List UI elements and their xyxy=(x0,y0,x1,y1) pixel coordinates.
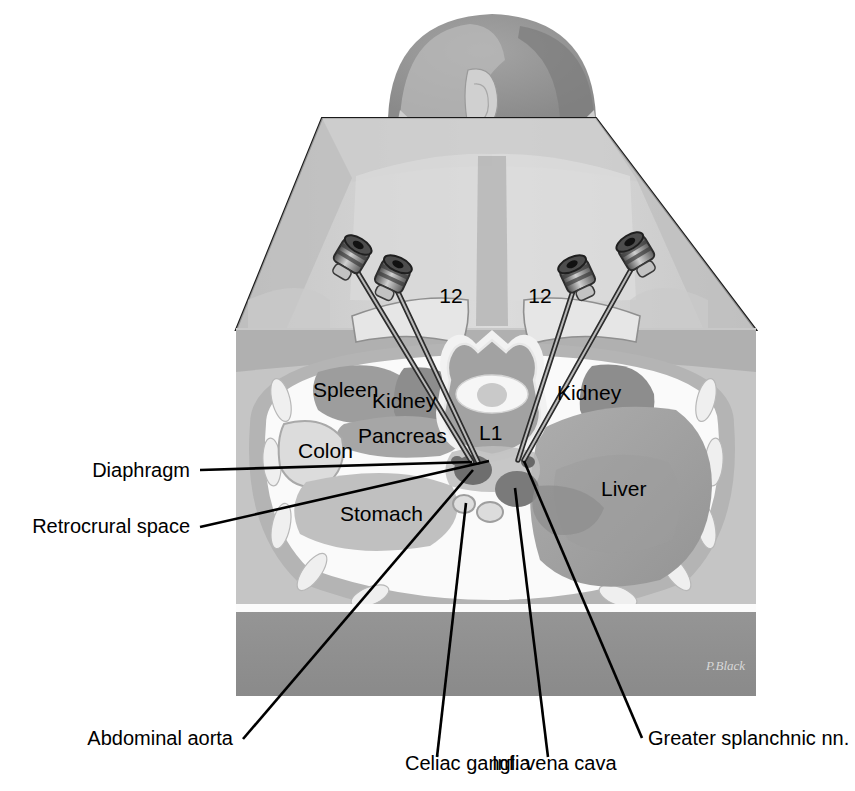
label-inf-vena-cava: Inf. vena cava xyxy=(492,752,617,774)
label-spleen: Spleen xyxy=(313,378,378,401)
label-retrocrural-space: Retrocrural space xyxy=(32,515,190,537)
table-sheet-edge xyxy=(236,604,756,612)
label-diaphragm: Diaphragm xyxy=(92,459,190,481)
label-kidney-left: Kidney xyxy=(372,389,437,412)
celiac-ganglion-right xyxy=(477,502,503,522)
label-l1-vertebra: L1 xyxy=(479,421,502,444)
label-abdominal-aorta: Abdominal aorta xyxy=(87,727,234,749)
label-stomach: Stomach xyxy=(340,502,423,525)
anatomical-illustration: Spleen Kidney Kidney Colon Pancreas Stom… xyxy=(0,0,855,791)
label-liver: Liver xyxy=(601,477,647,500)
label-rib-12-right: 12 xyxy=(528,284,551,307)
label-rib-12-left: 12 xyxy=(439,284,462,307)
label-colon: Colon xyxy=(298,439,353,462)
spinal-cord xyxy=(477,383,507,407)
label-pancreas: Pancreas xyxy=(358,424,447,447)
label-greater-splanchnic-nn: Greater splanchnic nn. xyxy=(648,727,849,749)
label-kidney-right: Kidney xyxy=(557,381,622,404)
artist-signature: P.Black xyxy=(705,658,745,673)
spinal-groove xyxy=(476,156,508,326)
illustration-canvas: Spleen Kidney Kidney Colon Pancreas Stom… xyxy=(0,0,855,791)
